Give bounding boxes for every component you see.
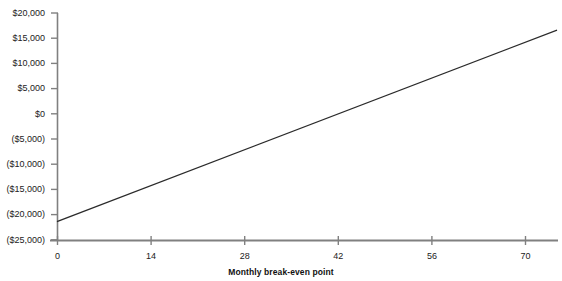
x-tick-label: 28	[225, 252, 265, 261]
y-tick-label: $0	[35, 110, 45, 119]
x-tick-label: 14	[131, 252, 171, 261]
y-tick-label: $5,000	[17, 84, 45, 93]
y-tick-label: $20,000	[12, 9, 45, 18]
y-tick-label: ($20,000)	[6, 210, 45, 219]
y-tick-label: ($5,000)	[11, 135, 45, 144]
y-tick-label: ($25,000)	[6, 236, 45, 245]
y-tick-label: $10,000	[12, 59, 45, 68]
y-tick-label: ($15,000)	[6, 185, 45, 194]
x-tick-label: 56	[412, 252, 452, 261]
break-even-chart: $20,000 $15,000 $10,000 $5,000 $0 ($5,00…	[0, 0, 562, 281]
profit-line-series	[58, 30, 557, 221]
x-tick-label: 70	[506, 252, 546, 261]
x-tick-label: 42	[318, 252, 358, 261]
y-tick-label: ($10,000)	[6, 160, 45, 169]
x-axis-title: Monthly break-even point	[0, 267, 562, 277]
plot-area	[0, 0, 562, 281]
y-tick-label: $15,000	[12, 34, 45, 43]
x-tick-label: 0	[38, 252, 78, 261]
